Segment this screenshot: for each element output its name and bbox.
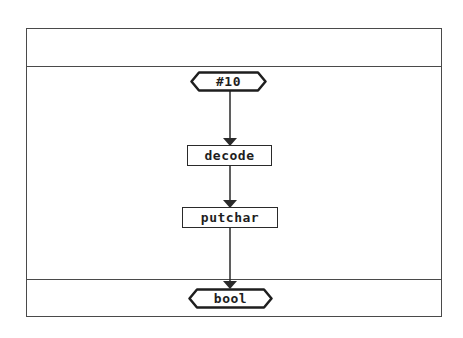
input-region [27, 29, 441, 66]
putchar-node[interactable]: putchar [182, 207, 278, 228]
output-node[interactable]: bool [188, 288, 273, 309]
putchar-node-label: putchar [201, 210, 259, 225]
input-node-label: #10 [216, 74, 241, 89]
input-divider [26, 66, 442, 67]
decode-node[interactable]: decode [187, 145, 272, 166]
output-divider [26, 279, 442, 280]
output-node-label: bool [214, 291, 247, 306]
input-node[interactable]: #10 [190, 71, 267, 92]
decode-node-label: decode [205, 148, 255, 163]
